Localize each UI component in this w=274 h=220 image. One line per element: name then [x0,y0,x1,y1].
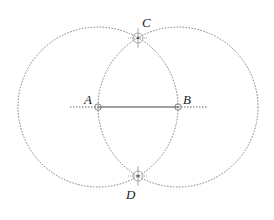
point-marker-d [128,166,148,186]
label-a: A [83,92,92,107]
label-d: D [125,187,136,202]
diagram-canvas: C A B D [0,0,274,220]
construction-svg: C A B D [0,0,274,220]
point-marker-c [128,28,148,48]
label-b: B [183,92,191,107]
label-c: C [142,15,151,30]
